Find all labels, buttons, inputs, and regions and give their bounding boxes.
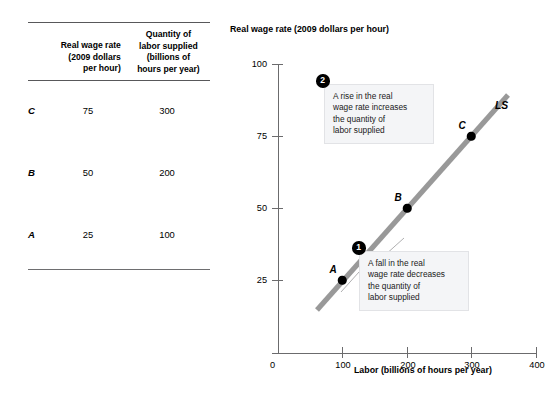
callout-fall: A fall in the real wage rate decreases t… <box>359 251 469 311</box>
table-cell-quantity: 100 <box>124 207 210 240</box>
table-row: C 75 300 <box>28 83 210 145</box>
x-axis-title: Labor (billions of hours per year) <box>354 365 492 375</box>
table-cell-wage: 50 <box>52 145 124 178</box>
labor-supply-chart: Real wage rate (2009 dollars per hour) 2… <box>228 24 538 374</box>
table-cell-key: C <box>28 83 52 116</box>
callout-fall-line3: the quantity of <box>368 281 461 292</box>
data-point-a-label: A <box>329 264 336 275</box>
y-axis-title: Real wage rate (2009 dollars per hour) <box>230 24 389 34</box>
callout-fall-badge: 1 <box>352 241 366 255</box>
callout-rise-line1: A rise in the real <box>333 91 426 102</box>
callout-fall-line1: A fall in the real <box>368 258 461 269</box>
callout-rise: A rise in the real wage rate increases t… <box>324 84 434 144</box>
table-row: B 50 200 <box>28 145 210 207</box>
callout-rise-line3: the quantity of <box>333 114 426 125</box>
data-point-c-label: C <box>458 120 465 131</box>
table-header-row: Real wage rate (2009 dollars per hour) Q… <box>28 23 210 80</box>
table-cell-quantity: 300 <box>124 83 210 116</box>
table-header-wage-line2: (2009 dollars <box>28 52 121 64</box>
table-cell-key: B <box>28 145 52 178</box>
table-header-wage-line3: per hour) <box>28 63 121 75</box>
data-point-a <box>338 276 347 285</box>
data-point-c <box>467 132 476 141</box>
callout-rise-line2: wage rate increases <box>333 102 426 113</box>
table-header-wage-line1: Real wage rate <box>28 40 121 52</box>
table-header-qty-line3: (billions of <box>127 52 210 64</box>
data-point-b-label: B <box>394 192 401 203</box>
table-header-wage: Real wage rate (2009 dollars per hour) <box>28 29 127 75</box>
ls-curve-label: LS <box>495 100 508 111</box>
table-cell-wage: 75 <box>52 83 124 116</box>
table-header-quantity: Quantity of labor supplied (billions of … <box>127 29 210 75</box>
plot-area: 25 50 75 100 100 200 300 400 0 <box>228 40 538 350</box>
table-cell-quantity: 200 <box>124 145 210 178</box>
callout-fall-line4: labor supplied <box>368 292 461 303</box>
table-header-qty-line4: hours per year) <box>127 64 210 76</box>
table-header-qty-line2: labor supplied <box>127 41 210 53</box>
table-header-qty-line1: Quantity of <box>127 29 210 41</box>
table-cell-key: A <box>28 207 52 240</box>
table-cell-wage: 25 <box>52 207 124 240</box>
callout-fall-line2: wage rate decreases <box>368 269 461 280</box>
table-rule-bottom <box>28 269 210 270</box>
data-point-b <box>403 204 412 213</box>
callout-rise-badge: 2 <box>316 74 330 88</box>
table-body: C 75 300 B 50 200 A 25 100 <box>28 81 210 269</box>
data-table: Real wage rate (2009 dollars per hour) Q… <box>28 22 210 270</box>
callout-rise-line4: labor supplied <box>333 125 426 136</box>
table-row: A 25 100 <box>28 207 210 269</box>
